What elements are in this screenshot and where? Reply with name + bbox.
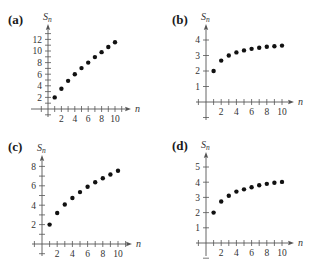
data-point [227,53,231,57]
data-point [101,176,105,180]
data-point [93,180,97,184]
y-axis-label: Sn [201,11,210,24]
data-point [234,189,238,193]
panel-b: (b) 2468101234nSn [155,0,310,134]
data-point [249,185,253,189]
x-tick-label: 6 [85,249,90,259]
y-axis-label: Sn [201,139,210,152]
y-tick-label: 2 [195,208,200,218]
data-point [63,202,67,206]
y-tick-label: 10 [33,46,43,56]
x-tick-label: 4 [72,114,77,124]
y-tick-label: 8 [31,162,36,172]
data-point [66,79,70,83]
y-tick-label: 4 [195,178,200,188]
x-tick-label: 6 [249,107,254,117]
y-tick-label: 8 [37,58,42,68]
data-point [93,55,97,59]
x-tick-label: 2 [55,249,60,259]
data-point [219,199,223,203]
x-tick-label: 6 [86,114,91,124]
x-axis-label: n [135,103,140,114]
data-point [234,50,238,54]
y-tick-label: 5 [195,162,200,172]
data-point [113,40,117,44]
x-tick-label: 10 [113,249,123,259]
data-point [86,60,90,64]
scatter-plot-a: 24681024681012nSn [0,0,155,134]
data-point [116,169,120,173]
data-point [227,194,231,198]
x-tick-label: 10 [277,248,287,258]
y-tick-label: 2 [195,66,200,76]
x-axis-label: n [298,96,303,107]
x-tick-label: 10 [110,114,120,124]
scatter-plot-d: 24681012345nSn [155,134,311,268]
y-tick-label: 6 [37,70,42,80]
data-point [280,43,284,47]
y-tick-label: 4 [37,81,42,91]
data-point [53,95,57,99]
data-point [108,172,112,176]
y-axis-label: Sn [43,11,52,24]
data-point [242,187,246,191]
y-axis-label: Sn [37,142,46,155]
panel-d: (d) 24681012345nSn [155,134,310,268]
data-point [59,87,63,91]
data-point [85,185,89,189]
scatter-plot-b: 2468101234nSn [155,0,311,134]
y-tick-label: 3 [195,51,200,61]
x-tick-label: 8 [100,249,105,259]
data-point [73,72,77,76]
x-tick-label: 8 [264,248,269,258]
x-tick-label: 8 [99,114,104,124]
y-tick-label: 2 [31,220,36,230]
y-tick-label: 2 [37,93,42,103]
x-tick-label: 2 [219,107,224,117]
data-point [265,45,269,49]
y-tick-label: 4 [31,201,36,211]
data-point [211,210,215,214]
scatter-plot-c: 2468102468nSn [0,134,155,268]
data-point [70,196,74,200]
x-tick-label: 2 [219,248,224,258]
y-tick-label: 1 [195,82,200,92]
y-tick-label: 6 [31,181,36,191]
data-point [280,180,284,184]
data-point [55,211,59,215]
data-point [99,50,103,54]
data-point [272,181,276,185]
panel-c: (c) 2468102468nSn [0,134,155,268]
y-tick-label: 3 [195,193,200,203]
data-point [272,44,276,48]
x-axis-label: n [298,237,303,248]
panel-a: (a) 24681024681012nSn [0,0,155,134]
x-tick-label: 6 [249,248,254,258]
data-point [78,190,82,194]
data-point [79,66,83,70]
data-point [106,45,110,49]
data-point [211,69,215,73]
data-point [242,48,246,52]
data-point [257,183,261,187]
data-point [249,47,253,51]
data-point [219,58,223,62]
y-tick-label: 1 [195,223,200,233]
x-tick-label: 10 [277,107,287,117]
data-point [47,222,51,226]
x-tick-label: 4 [234,248,239,258]
data-point [265,182,269,186]
y-tick-label: 12 [33,35,43,45]
x-tick-label: 4 [234,107,239,117]
x-axis-label: n [136,238,141,249]
data-point [257,46,261,50]
x-tick-label: 8 [264,107,269,117]
y-tick-label: 4 [195,35,200,45]
x-tick-label: 4 [70,249,75,259]
x-tick-label: 2 [59,114,64,124]
